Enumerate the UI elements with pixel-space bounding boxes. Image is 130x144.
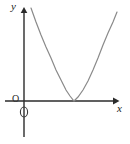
y-axis-label: y [11, 1, 16, 12]
y-axis-arrowhead [21, 7, 28, 13]
parabola-figure: y x O [0, 0, 130, 144]
origin-label: O [12, 94, 19, 104]
x-axis-label: x [117, 103, 122, 114]
parabola-curve [31, 8, 117, 101]
coordinate-plane-graphic [0, 0, 130, 144]
